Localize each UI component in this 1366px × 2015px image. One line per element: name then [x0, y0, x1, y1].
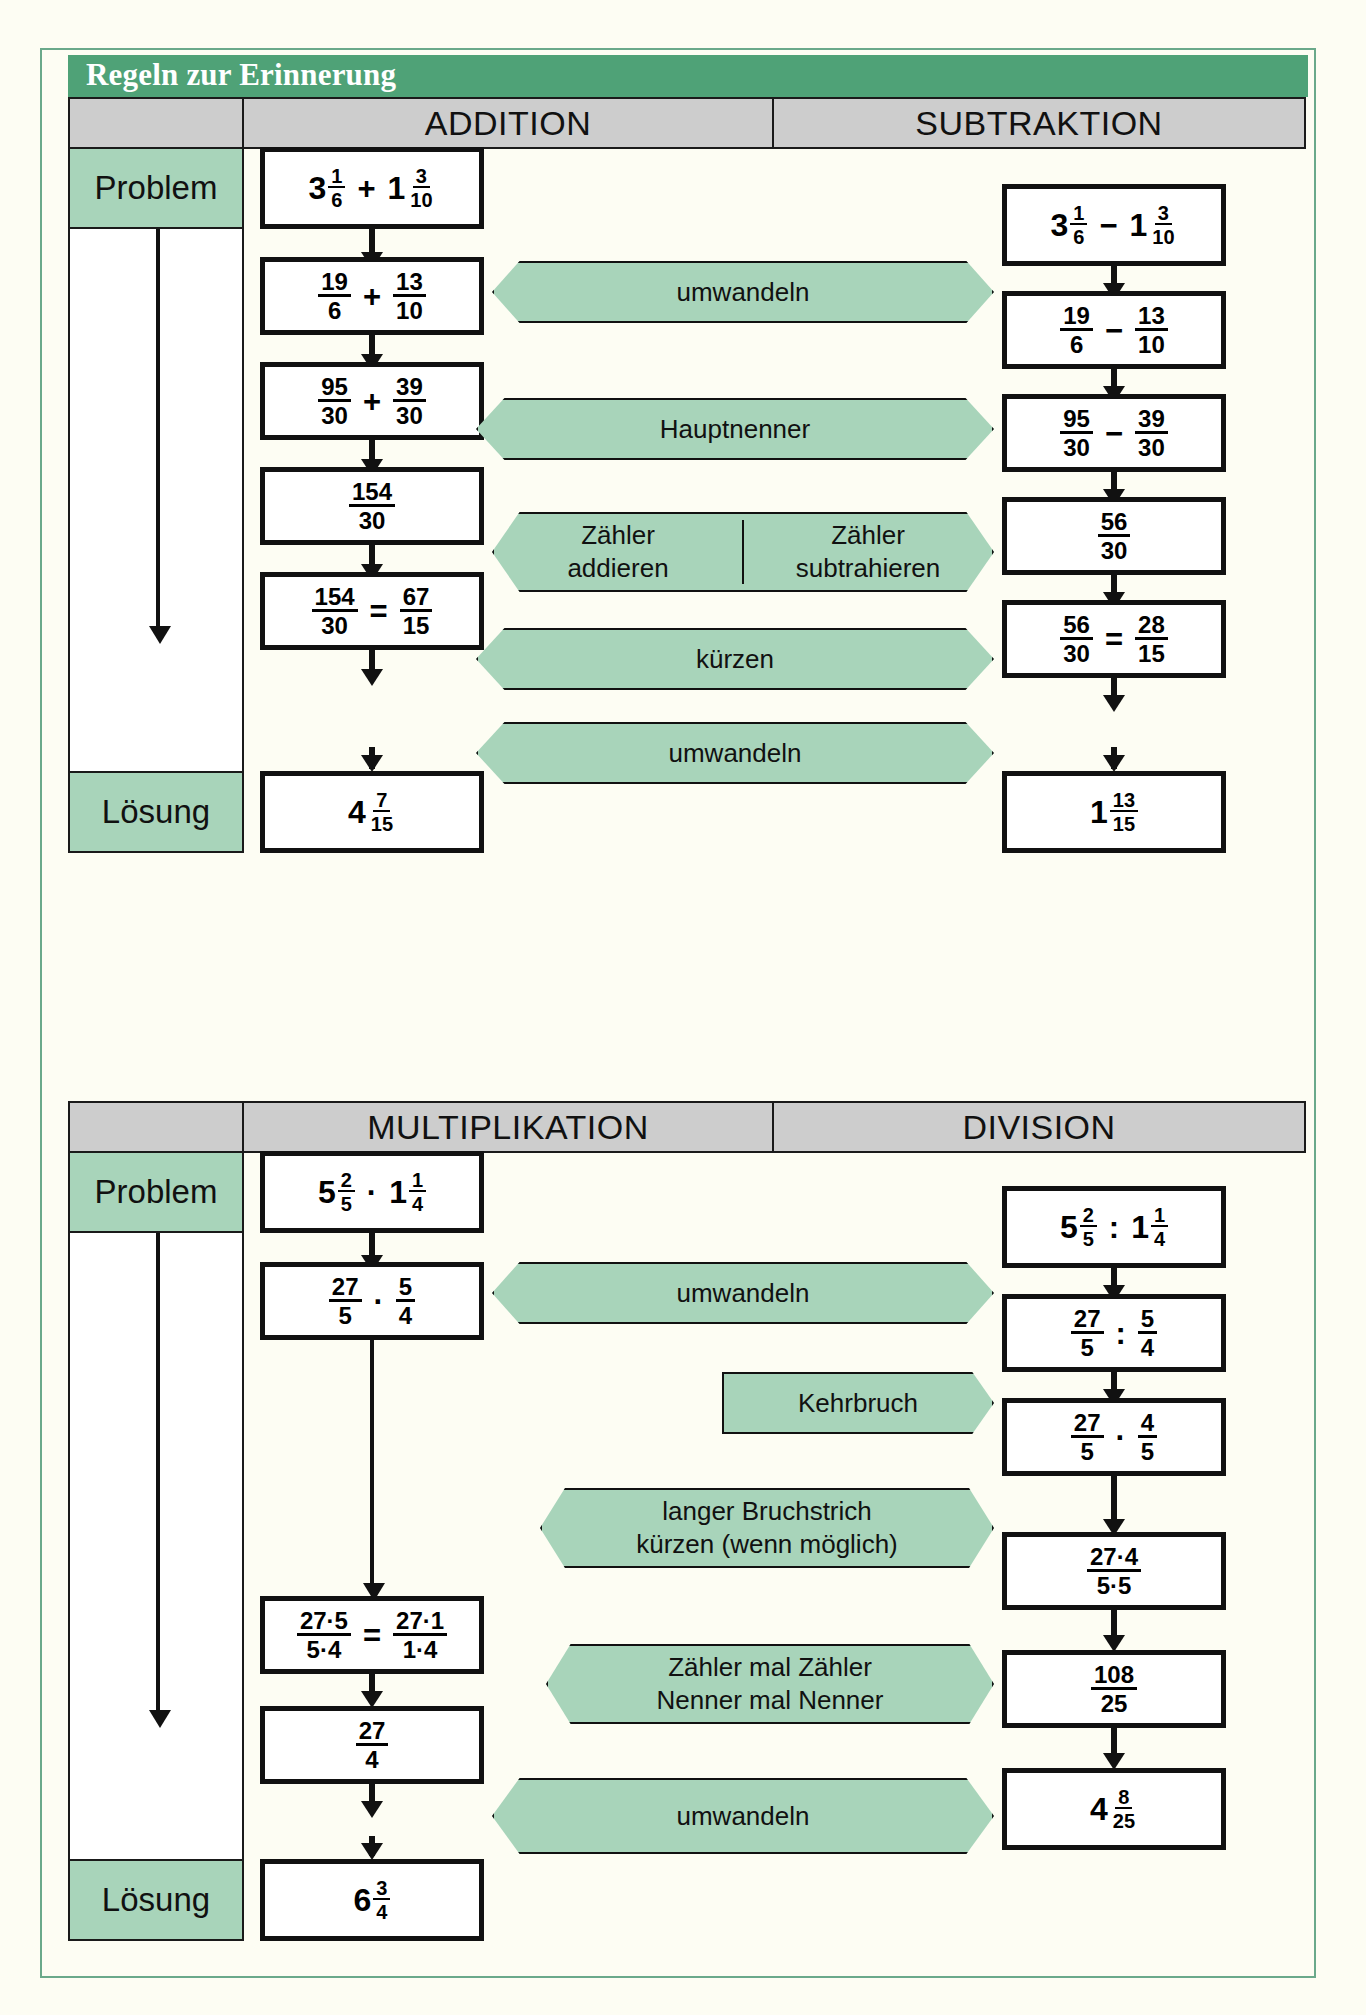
- flow-guide-arrowhead-2: [149, 1710, 171, 1728]
- sub-step-1-box: 316 − 1310: [1002, 184, 1226, 266]
- callout-kehrbruch-label: Kehrbruch: [798, 1388, 918, 1419]
- sub-step-5-box: 5630 = 2815: [1002, 600, 1226, 678]
- fraction-rules-poster: Regeln zur Erinnerung ADDITION SUBTRAKTI…: [0, 0, 1366, 2015]
- mul-step-4-box: 274: [260, 1706, 484, 1784]
- callout-zaehler-mal-zaehler-line1: Zähler mal Zähler: [657, 1652, 884, 1683]
- header-subtraktion: SUBTRAKTION: [772, 97, 1306, 149]
- callout-zaehler-subtrahieren-line1: Zähler: [796, 520, 941, 551]
- mul-step-3-expr: 27·55·4 = 27·11·4: [297, 1609, 447, 1662]
- sub-step-5-expr: 5630 = 2815: [1060, 613, 1168, 666]
- sub-step-3-box: 9530 − 3930: [1002, 394, 1226, 472]
- mul-solution-expr: 634: [354, 1878, 391, 1922]
- div-step-2-expr: 275 : 54: [1071, 1307, 1157, 1360]
- callout-hauptnenner: Hauptnenner: [476, 398, 994, 460]
- div-solution-box: 4825: [1002, 1768, 1226, 1850]
- flow-guide-line-1: [156, 229, 160, 629]
- callout-zaehler-subtrahieren: Zähler subtrahieren: [744, 520, 992, 583]
- callout-umwandeln-4-label: umwandeln: [677, 1801, 810, 1832]
- sub-arrowhead-6: [1103, 755, 1125, 772]
- sub-solution-expr: 11315: [1090, 790, 1138, 834]
- mul-long-connector: [370, 1340, 374, 1588]
- callout-kuerzen-label: kürzen: [696, 644, 774, 675]
- div-step-4-box: 27·45·5: [1002, 1532, 1226, 1610]
- sub-step-3-expr: 9530 − 3930: [1060, 407, 1168, 460]
- callout-zaehler-addieren-subtrahieren: Zähler addieren Zähler subtrahieren: [492, 512, 994, 592]
- sub-arrowhead-5: [1103, 695, 1125, 712]
- callout-umwandeln-1: umwandeln: [492, 261, 994, 323]
- mul-arrowhead-5: [361, 1843, 383, 1860]
- header-multiplikation: MULTIPLIKATION: [242, 1101, 774, 1153]
- add-step-3-expr: 9530 + 3930: [318, 375, 426, 428]
- label-problem-1: Problem: [68, 147, 244, 229]
- section-two-header-row: MULTIPLIKATION DIVISION: [68, 1101, 1306, 1153]
- callout-zaehler-addieren-line1: Zähler: [567, 520, 668, 551]
- add-step-1-box: 316 + 1310: [260, 147, 484, 229]
- div-step-5-expr: 10825: [1091, 1663, 1137, 1716]
- div-step-3-expr: 275 · 45: [1071, 1411, 1157, 1464]
- callout-umwandeln-3-label: umwandeln: [677, 1278, 810, 1309]
- mul-solution-box: 634: [260, 1859, 484, 1941]
- label-loesung-1: Lösung: [68, 771, 244, 853]
- flow-guide-arrowhead-1: [149, 626, 171, 644]
- callout-zaehler-mal-zaehler-line2: Nenner mal Nenner: [657, 1685, 884, 1716]
- sub-step-2-expr: 196 − 1310: [1060, 304, 1168, 357]
- callout-langer-bruchstrich-line2: kürzen (wenn möglich): [636, 1529, 898, 1560]
- callout-zaehler-mal-zaehler: Zähler mal Zähler Nenner mal Nenner: [546, 1644, 994, 1724]
- div-step-1-expr: 525 : 114: [1060, 1205, 1168, 1249]
- add-arrowhead-5: [361, 669, 383, 686]
- header-corner-blank-2: [68, 1101, 244, 1153]
- add-step-5-box: 15430 = 6715: [260, 572, 484, 650]
- div-step-5-box: 10825: [1002, 1650, 1226, 1728]
- header-addition: ADDITION: [242, 97, 774, 149]
- mul-step-1-expr: 525 · 114: [318, 1170, 426, 1214]
- sub-step-4-expr: 5630: [1098, 510, 1131, 563]
- add-step-2-expr: 196 + 1310: [318, 270, 426, 323]
- mul-step-2-box: 275 · 54: [260, 1262, 484, 1340]
- sub-step-2-box: 196 − 1310: [1002, 291, 1226, 369]
- callout-zaehler-addieren: Zähler addieren: [494, 520, 744, 583]
- sub-solution-box: 11315: [1002, 771, 1226, 853]
- callout-zaehler-addieren-line2: addieren: [567, 553, 668, 584]
- callout-langer-bruchstrich-stack: langer Bruchstrich kürzen (wenn möglich): [636, 1496, 898, 1559]
- callout-hauptnenner-label: Hauptnenner: [660, 414, 810, 445]
- div-solution-expr: 4825: [1090, 1787, 1138, 1831]
- header-corner-blank: [68, 97, 244, 149]
- label-problem-2: Problem: [68, 1151, 244, 1233]
- add-solution-expr: 4715: [348, 790, 396, 834]
- callout-langer-bruchstrich-line1: langer Bruchstrich: [636, 1496, 898, 1527]
- callout-langer-bruchstrich: langer Bruchstrich kürzen (wenn möglich): [540, 1488, 994, 1568]
- div-step-2-box: 275 : 54: [1002, 1294, 1226, 1372]
- sub-step-1-expr: 316 − 1310: [1050, 203, 1177, 247]
- div-step-3-box: 275 · 45: [1002, 1398, 1226, 1476]
- add-step-5-expr: 15430 = 6715: [312, 585, 433, 638]
- section-one-header-row: ADDITION SUBTRAKTION: [68, 97, 1306, 149]
- callout-zaehler-mal-zaehler-stack: Zähler mal Zähler Nenner mal Nenner: [657, 1652, 884, 1715]
- flow-guide-line-2: [156, 1233, 160, 1713]
- callout-umwandeln-2: umwandeln: [476, 722, 994, 784]
- callout-zaehler-subtrahieren-line2: subtrahieren: [796, 553, 941, 584]
- title-bar: Regeln zur Erinnerung: [68, 55, 1308, 97]
- label-loesung-2: Lösung: [68, 1859, 244, 1941]
- callout-kuerzen: kürzen: [476, 628, 994, 690]
- page-title: Regeln zur Erinnerung: [86, 57, 396, 93]
- mul-step-1-box: 525 · 114: [260, 1151, 484, 1233]
- callout-umwandeln-3: umwandeln: [492, 1262, 994, 1324]
- sub-step-4-box: 5630: [1002, 497, 1226, 575]
- mul-step-4-expr: 274: [356, 1719, 389, 1772]
- callout-umwandeln-2-label: umwandeln: [669, 738, 802, 769]
- add-step-3-box: 9530 + 3930: [260, 362, 484, 440]
- add-step-4-expr: 15430: [349, 480, 395, 533]
- add-step-2-box: 196 + 1310: [260, 257, 484, 335]
- mul-step-3-box: 27·55·4 = 27·11·4: [260, 1596, 484, 1674]
- div-step-4-expr: 27·45·5: [1087, 1545, 1141, 1598]
- add-arrowhead-6: [361, 755, 383, 772]
- add-step-4-box: 15430: [260, 467, 484, 545]
- callout-umwandeln-4: umwandeln: [492, 1778, 994, 1854]
- add-solution-box: 4715: [260, 771, 484, 853]
- div-step-1-box: 525 : 114: [1002, 1186, 1226, 1268]
- callout-split-container: Zähler addieren Zähler subtrahieren: [494, 514, 992, 590]
- mul-step-2-expr: 275 · 54: [329, 1275, 415, 1328]
- add-step-1-expr: 316 + 1310: [308, 166, 435, 210]
- header-division: DIVISION: [772, 1101, 1306, 1153]
- callout-kehrbruch: Kehrbruch: [722, 1372, 994, 1434]
